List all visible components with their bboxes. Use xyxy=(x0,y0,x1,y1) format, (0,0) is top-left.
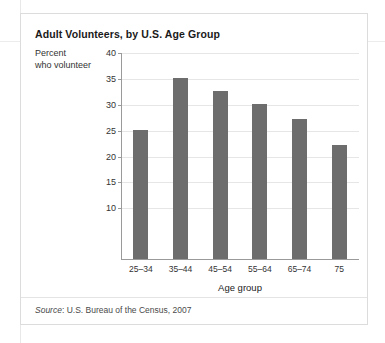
bar xyxy=(292,119,307,259)
y-tick-label: 15 xyxy=(106,177,116,187)
y-gridline xyxy=(122,131,359,132)
bar xyxy=(213,91,228,259)
source-text: : U.S. Bureau of the Census, 2007 xyxy=(62,305,191,315)
x-axis-line xyxy=(121,259,359,260)
y-tick-label: 20 xyxy=(106,152,116,162)
y-gridline xyxy=(122,182,359,183)
y-gridline xyxy=(122,53,359,54)
bar xyxy=(133,130,148,259)
y-tick-label: 30 xyxy=(106,100,116,110)
y-tick-mark xyxy=(118,182,121,183)
source-separator xyxy=(21,297,367,298)
x-tick-label: 45–54 xyxy=(208,264,232,274)
x-tick-label: 65–74 xyxy=(288,264,312,274)
y-tick-mark xyxy=(118,53,121,54)
y-tick-label: 10 xyxy=(106,203,116,213)
x-tick-label: 35–44 xyxy=(169,264,193,274)
y-tick-mark xyxy=(118,157,121,158)
x-tick-label: 55–64 xyxy=(248,264,272,274)
y-axis-label: Percent who volunteer xyxy=(35,47,105,71)
y-gridline xyxy=(122,157,359,158)
x-axis-title: Age group xyxy=(121,282,359,293)
y-tick-mark xyxy=(118,105,121,106)
y-axis-label-line1: Percent xyxy=(35,47,105,59)
source-label: Source xyxy=(35,305,62,315)
y-tick-label: 25 xyxy=(106,126,116,136)
y-gridline xyxy=(122,79,359,80)
x-tick-label: 25–34 xyxy=(129,264,153,274)
bar xyxy=(173,78,188,259)
x-tick-label: 75 xyxy=(334,264,343,274)
bar-chart: Percent who volunteer 4035302520151025–3… xyxy=(21,14,369,326)
bar xyxy=(252,104,267,259)
y-tick-mark xyxy=(118,208,121,209)
y-tick-label: 40 xyxy=(106,48,116,58)
y-axis-label-line2: who volunteer xyxy=(35,59,105,71)
source-note: Source: U.S. Bureau of the Census, 2007 xyxy=(35,305,191,315)
y-tick-mark xyxy=(118,79,121,80)
y-tick-label: 35 xyxy=(106,74,116,84)
chart-card: Adult Volunteers, by U.S. Age Group Perc… xyxy=(20,13,368,325)
bar xyxy=(332,145,347,259)
y-gridline xyxy=(122,208,359,209)
y-gridline xyxy=(122,105,359,106)
y-tick-mark xyxy=(118,131,121,132)
plot-area: 4035302520151025–3435–4445–5455–6465–747… xyxy=(121,53,359,260)
